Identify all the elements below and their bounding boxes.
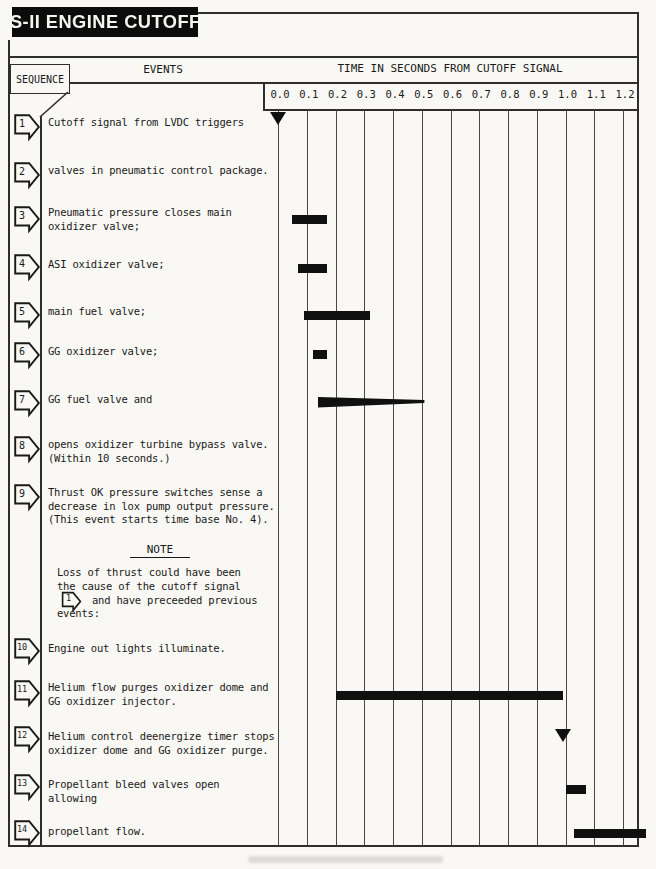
event-11-text-line-2: GG oxidizer injector. (48, 695, 177, 709)
sequence-badge-2: 2 (13, 160, 41, 190)
note-line-4: events: (57, 607, 100, 619)
sequence-badge-8: 8 (13, 434, 41, 464)
tick-label-0.3: 0.3 (357, 88, 376, 100)
event-8-text-line-1: opens oxidizer turbine bypass valve. (48, 438, 268, 452)
event-6-duration-bar (313, 350, 327, 359)
event-13-text-line-1: Propellant bleed valves open (48, 778, 219, 792)
sequence-badge-9: 9 (13, 482, 41, 512)
gridline-1.1 (594, 110, 595, 846)
gridline-0.7 (479, 110, 480, 846)
time-header-label: TIME IN SECONDS FROM CUTOFF SIGNAL (337, 62, 562, 75)
event-14-text-line-1: propellant flow. (48, 825, 146, 839)
sequence-badge-number: 11 (15, 678, 29, 700)
sequence-badge-number: 5 (15, 300, 29, 322)
tick-label-1.1: 1.1 (587, 88, 606, 100)
sequence-badge-10: 10 (13, 636, 41, 666)
sequence-badge-number: 12 (15, 724, 29, 746)
border-left (8, 40, 10, 846)
event-1-text-line-1: Cutoff signal from LVDC triggers (48, 116, 244, 130)
event-12-instant-marker (555, 729, 571, 742)
sequence-badge-7: 7 (13, 388, 41, 418)
gridline-0.6 (451, 110, 452, 846)
faint-caption-remnant (248, 856, 443, 863)
event-3-text-line-1: Pneumatic pressure closes main (48, 206, 232, 220)
sequence-badge-number: 6 (15, 340, 29, 362)
tick-label-0.5: 0.5 (414, 88, 433, 100)
event-14-duration-bar (574, 829, 646, 838)
gridline-1.2 (623, 110, 624, 846)
event-11-text-line-1: Helium flow purges oxidizer dome and (48, 681, 268, 695)
event-13-text-line-2: allowing (48, 792, 97, 806)
note-line-3: and have preceeded previous (92, 594, 257, 606)
event-10-text-line-1: Engine out lights illuminate. (48, 642, 226, 656)
sequence-badge-14: 14 (13, 818, 41, 848)
tick-label-0.1: 0.1 (299, 88, 318, 100)
sequence-badge-number: 2 (15, 160, 29, 182)
sequence-badge-4: 4 (13, 252, 41, 282)
document-page: S-II ENGINE CUTOFF SEQUENCE EVENTS TIME … (0, 0, 656, 869)
event-13-duration-bar (566, 785, 586, 794)
tick-label-0.8: 0.8 (501, 88, 520, 100)
sequence-badge-number: 13 (15, 772, 29, 794)
header-bottom-line (68, 82, 638, 84)
event-9-text-line-3: (This event starts time base No. 4). (48, 513, 268, 527)
tickstrip-left-line (263, 82, 265, 110)
page-title: S-II ENGINE CUTOFF (12, 7, 198, 37)
sequence-badge-5: 5 (13, 300, 41, 330)
note-line-1: Loss of thrust could have been (57, 566, 241, 578)
sequence-badge-12: 12 (13, 724, 41, 754)
page-title-text: S-II ENGINE CUTOFF (10, 11, 201, 33)
event-5-duration-bar (304, 311, 370, 320)
tick-label-0.0: 0.0 (271, 88, 290, 100)
sequence-badge-number: 4 (15, 252, 29, 274)
event-3-duration-bar (292, 215, 327, 224)
sequence-header-label: SEQUENCE (16, 74, 64, 85)
sequence-badge-number: 3 (15, 204, 29, 226)
sequence-badge-number: 14 (15, 818, 29, 840)
sequence-badge-number: 9 (15, 482, 29, 504)
event-7-text-line-1: GG fuel valve and (48, 393, 152, 407)
tick-label-0.6: 0.6 (443, 88, 462, 100)
event-12-text-line-2: oxidizer dome and GG oxidizer purge. (48, 744, 268, 758)
note-ref-badge-number: 1 (63, 590, 74, 606)
event-11-duration-bar (336, 691, 563, 700)
tick-label-1.0: 1.0 (558, 88, 577, 100)
event-3-text-line-2: oxidizer valve; (48, 220, 140, 234)
border-right (637, 12, 639, 846)
border-top (196, 12, 638, 14)
sequence-header-box: SEQUENCE (10, 64, 70, 94)
note-title: NOTE (130, 543, 190, 558)
event-2-text-line-1: valves in pneumatic control package. (48, 164, 268, 178)
tick-label-0.2: 0.2 (328, 88, 347, 100)
event-9-text-line-2: decrease in lox pump output pressure. (48, 500, 275, 514)
event-8-text-line-2: (Within 10 seconds.) (48, 452, 170, 466)
border-bottom (8, 845, 639, 847)
sequence-badge-number: 8 (15, 434, 29, 456)
event-6-text-line-1: GG oxidizer valve; (48, 345, 158, 359)
gridline-0.4 (393, 110, 394, 846)
sequence-badge-11: 11 (13, 678, 41, 708)
gridline-0.2 (336, 110, 337, 846)
event-9-text-line-1: Thrust OK pressure switches sense a (48, 486, 262, 500)
events-header-label: EVENTS (143, 63, 183, 76)
event-4-text-line-1: ASI oxidizer valve; (48, 258, 164, 272)
tick-label-1.2: 1.2 (616, 88, 635, 100)
gridline-0.9 (537, 110, 538, 846)
event-12-text-line-1: Helium control deenergize timer stops (48, 730, 275, 744)
tick-label-0.9: 0.9 (529, 88, 548, 100)
gridline-0.8 (508, 110, 509, 846)
gridline-0.5 (422, 110, 423, 846)
sequence-badge-3: 3 (13, 204, 41, 234)
sequence-badge-number: 7 (15, 388, 29, 410)
sequence-badge-number: 10 (15, 636, 29, 658)
gridline-0.0 (278, 110, 279, 846)
sequence-badge-6: 6 (13, 340, 41, 370)
sequence-badge-number: 1 (15, 112, 29, 134)
header-top-line (8, 56, 638, 58)
event-5-text-line-1: main fuel valve; (48, 305, 146, 319)
event-1-instant-marker (270, 112, 286, 125)
tick-label-0.7: 0.7 (472, 88, 491, 100)
event-4-duration-bar (298, 264, 327, 273)
note-line-2: the cause of the cutoff signal (57, 580, 241, 592)
event-7-wedge-marker (318, 396, 424, 408)
